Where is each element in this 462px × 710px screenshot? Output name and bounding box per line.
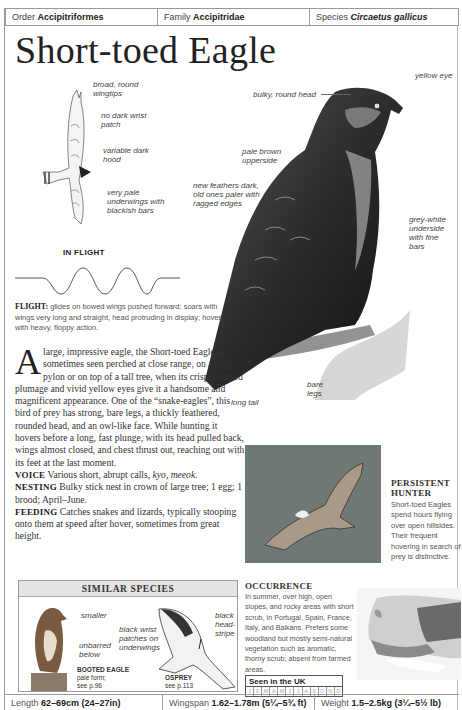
eagle-flight-illustration <box>35 86 95 226</box>
similar-species-box: SIMILAR SPECIES smaller unbarred below B… <box>18 580 238 692</box>
field-guide-page: Order Accipitriformes Family Accipitrida… <box>4 8 458 710</box>
label-smaller: smaller <box>81 611 107 620</box>
length-value: 62–69cm (24–27in) <box>41 698 121 708</box>
seen-in-uk-heading: Seen in the UK <box>246 676 342 687</box>
wingspan-cell: Wingspan 1.62–1.78m (5¼–5¾ ft) <box>163 695 315 710</box>
label-dark-hood: variable dark hood <box>103 146 163 164</box>
species-cell: Species Circaetus gallicus <box>310 9 458 25</box>
occurrence-heading: OCCURRENCE <box>245 581 355 591</box>
label-bulky-head: bulky, round head <box>253 90 316 99</box>
photo-caption-heading: PERSISTENT HUNTER <box>391 478 461 498</box>
species-value: Circaetus gallicus <box>351 12 428 22</box>
measurements-bar: Length 62–69cm (24–27in) Wingspan 1.62–1… <box>5 694 459 710</box>
label-grey-white-underside: grey-white underside with fine bars <box>409 215 453 251</box>
osprey-caption: OSPREY see p.113 <box>165 674 193 690</box>
drop-cap: A <box>15 348 41 376</box>
weight-value: 1.5–2.5kg (3¼–5½ lb) <box>351 698 441 708</box>
order-value: Accipitriformes <box>38 12 104 22</box>
label-broad-wingtips: broad, round wingtips <box>93 80 153 98</box>
booted-eagle-caption: BOOTED EAGLE pale form; see p.96 <box>77 666 129 690</box>
occurrence-text: In summer, over high, open slopes, and r… <box>245 592 355 675</box>
range-map <box>357 588 461 680</box>
label-black-head-stripe: black head-stripe <box>215 611 239 638</box>
feeding-section: FEEDING Catches snakes and lizards, typi… <box>15 506 245 543</box>
flight-pattern-wave-icon <box>15 266 180 296</box>
nesting-section: NESTING Bulky stick nest in crown of lar… <box>15 481 245 506</box>
intro-text: large, impressive eagle, the Short-toed … <box>15 346 244 468</box>
wingspan-value: 1.62–1.78m (5¼–5¾ ft) <box>212 698 307 708</box>
label-bare-legs: bare legs <box>307 380 329 398</box>
booted-eagle-page-link[interactable]: see p.96 <box>77 682 129 690</box>
page-title: Short-toed Eagle <box>15 28 276 72</box>
order-cell: Order Accipitriformes <box>6 9 158 25</box>
label-pale-brown-upperside: pale brown upperside <box>242 147 292 165</box>
occurrence-section: OCCURRENCE In summer, over high, open sl… <box>245 581 355 675</box>
family-cell: Family Accipitridae <box>158 9 310 25</box>
label-new-feathers: new feathers dark, old ones paler with r… <box>193 181 261 208</box>
voice-section: VOICE Various short, abrupt calls, kyo, … <box>15 469 245 481</box>
label-pale-underwings: very pale underwings with blackish bars <box>107 188 171 215</box>
dark-hood-icon <box>79 166 91 178</box>
booted-eagle-icon <box>25 601 75 691</box>
osprey-page-link[interactable]: see p.113 <box>165 682 193 690</box>
taxonomy-bar: Order Accipitriformes Family Accipitrida… <box>5 8 459 26</box>
weight-cell: Weight 1.5–2.5kg (3¼–5½ lb) <box>315 695 459 710</box>
label-black-wrist-patches: black wrist patches on underwings <box>119 625 169 652</box>
in-flight-caption: IN FLIGHT <box>63 248 105 257</box>
family-value: Accipitridae <box>193 12 245 22</box>
label-no-wrist-patch: no dark wrist patch <box>101 111 161 129</box>
hunting-eagle-photo <box>245 445 381 563</box>
length-cell: Length 62–69cm (24–27in) <box>5 695 163 710</box>
photo-caption: PERSISTENT HUNTER Short-toed Eagles spen… <box>391 478 461 562</box>
species-description: Alarge, impressive eagle, the Short-toed… <box>15 346 245 543</box>
label-yellow-eye: yellow eye <box>415 71 452 80</box>
photo-caption-text: Short-toed Eagles spend hours flying ove… <box>391 500 461 562</box>
eye-icon <box>374 103 380 109</box>
flying-eagle-icon <box>245 445 381 563</box>
similar-species-heading: SIMILAR SPECIES <box>19 581 237 597</box>
label-unbarred-below: unbarred below <box>79 641 113 659</box>
